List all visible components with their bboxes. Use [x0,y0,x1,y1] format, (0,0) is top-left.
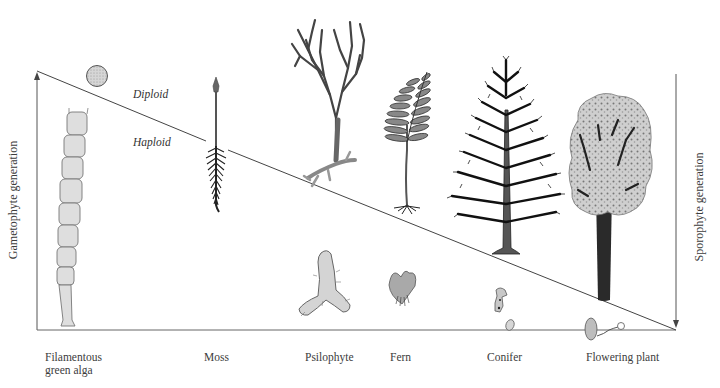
haploid-zone-label: Haploid [133,136,171,148]
psilophyte-sporophyte-icon [292,20,364,186]
moss-icon [206,77,226,212]
right-axis-arrow [673,74,679,328]
label-conifer: Conifer [487,351,522,364]
filamentous-green-alga-icon [57,108,88,326]
diploid-zygote-icon [87,66,108,87]
diagram-svg [0,0,720,388]
conifer-gametophyte-icon [495,288,516,332]
flowering-plant-gametophyte-icon [585,318,625,340]
sporophyte-generation-axis-label: Sporophyte generation [692,153,707,262]
conifer-sporophyte-icon [447,56,565,254]
label-moss: Moss [204,351,229,364]
flowering-plant-sporophyte-icon [569,93,652,301]
label-fern: Fern [390,351,411,364]
diagram-canvas: Gametophyte generation Sporophyte genera… [0,0,720,388]
fern-gametophyte-icon [389,271,416,306]
label-flowering-plant: Flowering plant [586,351,659,364]
label-filamentous-green-alga: Filamentous green alga [45,351,102,377]
label-filamentous-line1: Filamentous [45,351,102,364]
label-psilophyte: Psilophyte [305,351,354,364]
fern-sporophyte-icon [384,72,432,214]
gametophyte-generation-axis-label: Gametophyte generation [6,141,21,259]
psilophyte-gametophyte-icon [299,251,350,316]
diploid-zone-label: Diploid [133,88,168,100]
label-filamentous-line2: green alga [45,364,102,377]
left-axis-arrow [34,72,40,330]
